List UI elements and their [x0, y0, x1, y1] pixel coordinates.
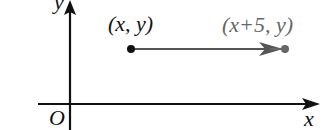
y-axis-label: y: [52, 0, 64, 14]
x-axis: [38, 98, 320, 110]
start-point-label: (x, y): [108, 11, 153, 36]
x-axis-label: x: [303, 106, 314, 130]
translation-arrow: [131, 42, 286, 56]
end-point: [281, 45, 289, 53]
end-point-label: (x+5, y): [222, 12, 293, 37]
origin-label: O: [49, 105, 65, 130]
start-point: [127, 45, 135, 53]
coordinate-diagram: y O x (x, y) (x+5, y): [0, 0, 336, 130]
y-axis: [64, 0, 76, 130]
